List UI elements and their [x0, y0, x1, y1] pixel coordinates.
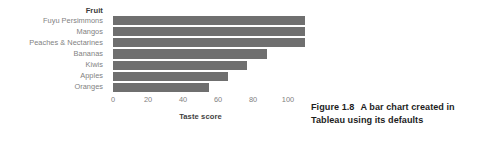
bar — [113, 38, 305, 47]
x-axis: 020406080100 — [113, 95, 288, 107]
bar-row: Kiwis — [0, 60, 305, 71]
category-axis-title: Fruit — [0, 6, 108, 15]
bar-chart: Fruit Fuyu PersimmonsMangosPeaches & Nec… — [0, 0, 305, 146]
bar — [113, 49, 267, 58]
bar-track — [113, 83, 305, 92]
x-axis-title: Taste score — [113, 112, 288, 122]
bar-row: Fuyu Persimmons — [0, 15, 305, 26]
bar — [113, 27, 305, 36]
figure-caption: Figure 1.8A bar chart created in Tableau… — [311, 101, 477, 126]
bar-row: Bananas — [0, 48, 305, 59]
figure-caption-number: Figure 1.8 — [311, 102, 354, 112]
bar-row: Peaches & Nectarines — [0, 37, 305, 48]
bar — [113, 61, 247, 70]
bar-track — [113, 27, 305, 36]
x-axis-tick: 60 — [214, 95, 222, 105]
bar-track — [113, 72, 305, 81]
bar-category-label: Oranges — [0, 82, 108, 92]
bar — [113, 83, 209, 92]
bar-row: Apples — [0, 71, 305, 82]
bar-category-label: Apples — [0, 71, 108, 81]
bar-track — [113, 61, 305, 70]
plot-area: Fuyu PersimmonsMangosPeaches & Nectarine… — [0, 15, 305, 93]
bar-category-label: Fuyu Persimmons — [0, 16, 108, 26]
bar-category-label: Peaches & Nectarines — [0, 38, 108, 48]
bar-category-label: Bananas — [0, 49, 108, 59]
bar — [113, 16, 305, 25]
x-axis-tick: 0 — [111, 95, 115, 105]
bar-row: Oranges — [0, 82, 305, 93]
x-axis-tick: 20 — [144, 95, 152, 105]
figure-page: Fruit Fuyu PersimmonsMangosPeaches & Nec… — [0, 0, 480, 146]
bar-track — [113, 49, 305, 58]
x-axis-tick: 100 — [282, 95, 294, 105]
bar-track — [113, 38, 305, 47]
bar-row: Mangos — [0, 26, 305, 37]
x-axis-tick: 80 — [249, 95, 257, 105]
bar — [113, 72, 228, 81]
bar-track — [113, 16, 305, 25]
bar-category-label: Mangos — [0, 27, 108, 37]
bar-category-label: Kiwis — [0, 60, 108, 70]
x-axis-tick: 40 — [179, 95, 187, 105]
